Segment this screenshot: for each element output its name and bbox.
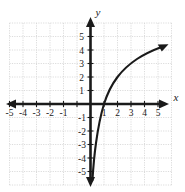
y-tick-label: 1 (79, 86, 84, 96)
y-axis-top-arrow-icon (86, 17, 95, 27)
y-tick-label: 2 (79, 73, 84, 83)
x-tick-label: 5 (156, 108, 161, 118)
y-tick-label: 5 (79, 32, 84, 42)
y-axis-bottom-arrow-icon (86, 177, 95, 187)
graph-canvas: -5 -4 -3 -2 -1 1 2 3 4 5 5 4 3 2 1 -1 -2… (0, 0, 185, 192)
coordinate-plane-graph: -5 -4 -3 -2 -1 1 2 3 4 5 5 4 3 2 1 -1 -2… (0, 0, 185, 192)
y-tick-label: -2 (78, 127, 86, 137)
x-axis-label: x (173, 91, 179, 103)
x-tick-label: 4 (142, 108, 147, 118)
y-tick-label: 4 (79, 46, 84, 56)
x-tick-label: 2 (115, 108, 120, 118)
x-tick-label: -4 (19, 108, 27, 118)
y-tick-label: -3 (78, 140, 86, 150)
x-tick-label: -3 (33, 108, 41, 118)
y-tick-label: -1 (78, 113, 86, 123)
x-axis-right-arrow-icon (159, 100, 169, 109)
y-tick-label: -5 (78, 167, 86, 177)
y-tick-label: -4 (78, 154, 86, 164)
x-tick-label: -5 (6, 108, 14, 118)
y-axis-label: y (95, 6, 101, 18)
x-tick-label: 3 (129, 108, 134, 118)
x-tick-label: -1 (60, 108, 68, 118)
y-tick-label: 3 (79, 59, 84, 69)
x-tick-label: -2 (46, 108, 54, 118)
